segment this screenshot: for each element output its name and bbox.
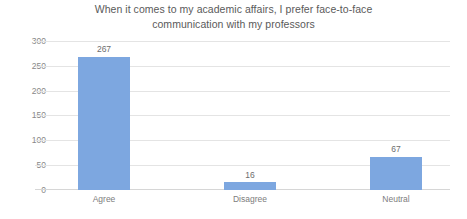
chart-title-line-1: When it comes to my academic affairs, I … [0, 2, 467, 17]
bar-value-neutral: 67 [370, 144, 422, 154]
x-axis-label-disagree: Disagree [220, 194, 280, 204]
bar-chart: When it comes to my academic affairs, I … [0, 0, 467, 219]
gridline-300 [35, 41, 450, 42]
bar-disagree[interactable] [224, 182, 276, 190]
chart-title-line-2: communication with my professors [0, 17, 467, 32]
chart-title: When it comes to my academic affairs, I … [0, 2, 467, 32]
x-axis-label-neutral: Neutral [366, 194, 426, 204]
plot-area [35, 41, 450, 190]
bar-value-disagree: 16 [224, 170, 276, 180]
bar-value-agree: 267 [78, 44, 130, 54]
bar-agree[interactable] [78, 57, 130, 190]
bar-neutral[interactable] [370, 157, 422, 190]
x-axis-label-agree: Agree [74, 194, 134, 204]
